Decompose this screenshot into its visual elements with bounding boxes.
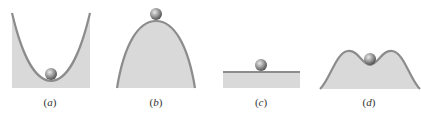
hill-surface: [117, 21, 195, 88]
figure-canvas: [0, 0, 421, 115]
panel-d-label: (d): [363, 96, 376, 108]
panel-c-label: (c): [255, 96, 267, 108]
equilibrium-figure: (a) (b) (c) (d): [0, 0, 421, 115]
panel-a-label: (a): [44, 96, 57, 108]
ball: [255, 59, 267, 71]
ball: [364, 53, 376, 65]
panel-c-neutral: [223, 59, 300, 88]
paren-close: ): [53, 96, 57, 108]
ball: [45, 68, 57, 80]
panel-b-label: (b): [150, 96, 163, 108]
panel-a-stable: [12, 13, 90, 88]
panel-b-unstable: [117, 8, 195, 88]
paren-close: ): [263, 96, 267, 108]
paren-close: ): [159, 96, 163, 108]
ball: [150, 8, 162, 20]
panel-d-metastable: [320, 51, 420, 89]
flat-surface: [223, 72, 300, 88]
paren-close: ): [372, 96, 376, 108]
